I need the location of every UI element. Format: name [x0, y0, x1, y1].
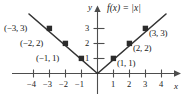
- function-label: f(x) = |x|: [107, 4, 141, 14]
- y-tick-label-1: 1: [85, 54, 89, 63]
- marker-neg1-1: [79, 56, 84, 61]
- x-tick-label-neg2: −2: [59, 80, 68, 89]
- y-axis-group: [94, 6, 100, 95]
- x-tick-label-2: 2: [127, 80, 131, 89]
- x-tick-label-1: 1: [111, 80, 115, 89]
- point-label-neg1-1: (−1, 1): [36, 54, 59, 63]
- x-axis-label: x: [174, 82, 178, 91]
- x-tick-label-4: 4: [159, 80, 163, 89]
- point-label-1-1: (1, 1): [117, 59, 135, 68]
- point-label-3-3: (3, 3): [149, 29, 167, 38]
- marker-neg2-2: [63, 41, 68, 46]
- y-tick-label-3: 3: [85, 24, 89, 33]
- marker-neg3-3: [47, 26, 52, 31]
- x-tick-label-3: 3: [143, 80, 147, 89]
- y-axis-arrow: [94, 6, 100, 13]
- x-tick-label-neg3: −3: [43, 80, 52, 89]
- y-axis-label: y: [88, 3, 92, 12]
- point-label-neg3-3: (−3, 3): [4, 24, 27, 33]
- marker-3-3: [143, 26, 148, 31]
- marker-1-1: [111, 56, 116, 61]
- marker-2-2: [127, 41, 132, 46]
- x-axis-arrow: [174, 70, 181, 76]
- absolute-value-graph-figure: (−3, 3) (−2, 2) (−1, 1) (1, 1) (2, 2) (3…: [0, 0, 185, 101]
- x-tick-label-neg1: −1: [75, 80, 84, 89]
- point-label-2-2: (2, 2): [133, 44, 151, 53]
- y-tick-label-2: 2: [85, 39, 89, 48]
- y-tick-marks: [94, 29, 105, 59]
- point-label-neg2-2: (−2, 2): [20, 39, 43, 48]
- x-tick-label-neg4: −4: [27, 80, 36, 89]
